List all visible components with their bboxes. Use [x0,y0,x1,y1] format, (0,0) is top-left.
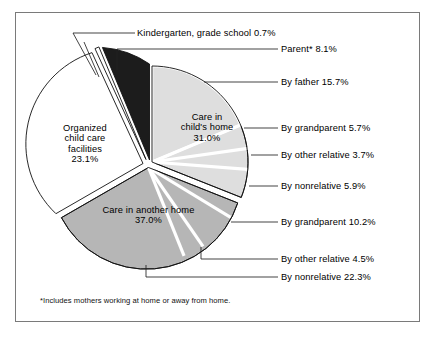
slice-label-care-in-another-home-value: 37.0% [76,215,221,225]
leader-line-by-other-relative-another-home [201,247,278,259]
callout-label-by-other-relative-another-home: By other relative 4.5% [281,254,374,264]
pie-chart-figure: Care in child's home 31.0% Care in anoth… [0,0,437,344]
slice-label-organized-line3: facilities [44,144,126,154]
callout-label-by-nonrelative-child-home: By nonrelative 5.9% [281,181,366,191]
slice-label-care-in-another-home: Care in another home 37.0% [76,205,221,226]
callout-label-by-other-relative-child-home: By other relative 3.7% [281,150,374,160]
slice-label-organized-line1: Organized [44,123,126,133]
pie-graphics-layer [0,0,437,344]
callout-label-by-grandparent-another-home: By grandparent 10.2% [281,217,376,227]
callout-label-by-father: By father 15.7% [281,77,349,87]
callout-label-by-nonrelative-another-home: By nonrelative 22.3% [281,272,371,282]
callout-label-by-grandparent-child-home: By grandparent 5.7% [281,123,370,133]
footnote-text: *Includes mothers working at home or awa… [40,296,230,305]
slice-label-care-in-childs-home: Care in child's home 31.0% [168,112,246,143]
slice-label-care-in-childs-home-line2: child's home [168,122,246,132]
slice-label-organized-line2: child care [44,133,126,143]
callout-label-kindergarten-grade-school: Kindergarten, grade school 0.7% [137,28,276,38]
slice-label-organized-child-care-facilities: Organized child care facilities 23.1% [44,123,126,165]
callout-label-parent: Parent* 8.1% [281,44,337,54]
slice-label-care-in-another-home-line1: Care in another home [76,205,221,215]
slice-label-care-in-childs-home-line1: Care in [168,112,246,122]
slice-label-care-in-childs-home-value: 31.0% [168,133,246,143]
slice-label-organized-value: 23.1% [44,154,126,164]
